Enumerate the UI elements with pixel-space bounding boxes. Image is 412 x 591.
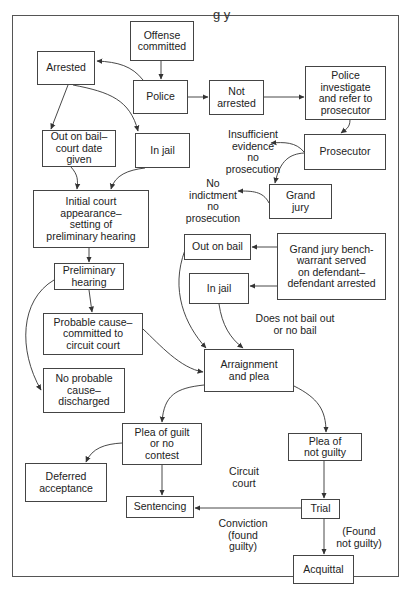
label-conviction: Conviction (found guilty) bbox=[216, 518, 270, 553]
node-out-on-bail-mid: Out on bail bbox=[184, 234, 251, 260]
node-sentencing: Sentencing bbox=[126, 496, 194, 518]
node-label: Out on bail bbox=[192, 241, 243, 253]
node-label: Police bbox=[146, 91, 175, 103]
label-found-not-guilty: (Found not guilty) bbox=[328, 526, 390, 549]
node-label: Grand jury bench- warrant served on defe… bbox=[287, 244, 375, 290]
node-trial: Trial bbox=[301, 499, 340, 519]
node-offense-committed: Offense committed bbox=[130, 21, 194, 61]
node-initial-court-appearance: Initial court appearance– setting of pre… bbox=[33, 190, 149, 248]
node-label: Arraignment and plea bbox=[220, 359, 277, 382]
node-label: Offense committed bbox=[138, 30, 186, 53]
node-label: Plea of guilt or no contest bbox=[135, 427, 190, 462]
node-label: Arrested bbox=[46, 62, 86, 74]
node-deferred-acceptance: Deferred acceptance bbox=[25, 463, 107, 502]
node-label: Prosecutor bbox=[320, 146, 371, 158]
node-grand-jury: Grand jury bbox=[269, 184, 332, 219]
node-plea-of-guilt: Plea of guilt or no contest bbox=[122, 423, 202, 465]
node-probable-cause: Probable cause– committed to circuit cou… bbox=[43, 313, 143, 355]
node-label: Out on bail– court date given bbox=[51, 131, 108, 166]
node-no-probable-cause: No probable cause– discharged bbox=[43, 368, 125, 413]
node-label: Not arrested bbox=[217, 86, 256, 109]
node-label: Grand jury bbox=[286, 190, 315, 213]
label-insufficient-evidence: Insufficient evidence no prosecution bbox=[215, 129, 291, 175]
node-label: Initial court appearance– setting of pre… bbox=[46, 196, 135, 242]
node-label: No probable cause– discharged bbox=[55, 373, 112, 408]
label-does-not-bail: Does not bail out or no bail bbox=[245, 313, 345, 336]
node-prosecutor: Prosecutor bbox=[304, 134, 386, 170]
node-preliminary-hearing: Preliminary hearing bbox=[54, 263, 124, 290]
node-label: Sentencing bbox=[134, 501, 187, 513]
node-label: Police investigate and refer to prosecut… bbox=[319, 70, 373, 116]
node-acquittal: Acquittal bbox=[293, 555, 354, 584]
label-circuit-court: Circuit court bbox=[222, 466, 266, 489]
node-arrested: Arrested bbox=[37, 51, 95, 85]
node-label: Trial bbox=[310, 503, 330, 515]
node-label: In jail bbox=[207, 283, 232, 295]
node-label: Plea of not guilty bbox=[304, 436, 346, 459]
node-police-investigate: Police investigate and refer to prosecut… bbox=[305, 66, 386, 120]
node-out-on-bail-court-date: Out on bail– court date given bbox=[42, 130, 116, 167]
node-in-jail-mid: In jail bbox=[189, 273, 249, 304]
node-label: Acquittal bbox=[303, 564, 343, 576]
node-police: Police bbox=[133, 80, 188, 114]
label-no-indictment: No indictment no prosecution bbox=[185, 178, 241, 224]
node-plea-not-guilty: Plea of not guilty bbox=[288, 433, 362, 461]
node-label: Deferred acceptance bbox=[39, 471, 93, 494]
node-not-arrested: Not arrested bbox=[209, 80, 264, 115]
node-label: In jail bbox=[150, 145, 175, 157]
node-label: Preliminary hearing bbox=[63, 265, 116, 288]
node-arraignment: Arraignment and plea bbox=[204, 349, 294, 392]
node-bench-warrant: Grand jury bench- warrant served on defe… bbox=[277, 233, 386, 300]
node-in-jail-left: In jail bbox=[135, 133, 190, 168]
node-label: Probable cause– committed to circuit cou… bbox=[54, 317, 133, 352]
